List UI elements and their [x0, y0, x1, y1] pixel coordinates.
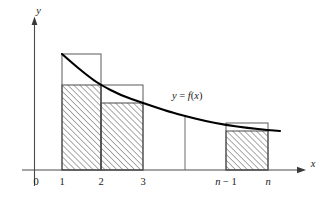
- x-tick-label-1: 1: [59, 176, 64, 187]
- hatched-rect-2: [101, 103, 143, 170]
- x-tick-label-n: n: [265, 176, 270, 187]
- hatched-rect-1: [62, 85, 101, 170]
- origin-label: 0: [33, 176, 38, 187]
- curve-label: y = f(x): [171, 90, 203, 102]
- math-diagram: y x 0 1 2 3 n − 1 n y = f(x): [0, 0, 323, 201]
- y-axis-label: y: [35, 5, 41, 16]
- figure-container: y x 0 1 2 3 n − 1 n y = f(x): [0, 0, 323, 201]
- x-tick-label-3: 3: [140, 176, 145, 187]
- x-tick-label-n-minus-1: n − 1: [215, 176, 237, 187]
- x-tick-label-2: 2: [98, 176, 103, 187]
- x-axis-label: x: [310, 158, 316, 169]
- y-axis: [32, 17, 38, 187]
- hatched-rect-3: [226, 131, 268, 170]
